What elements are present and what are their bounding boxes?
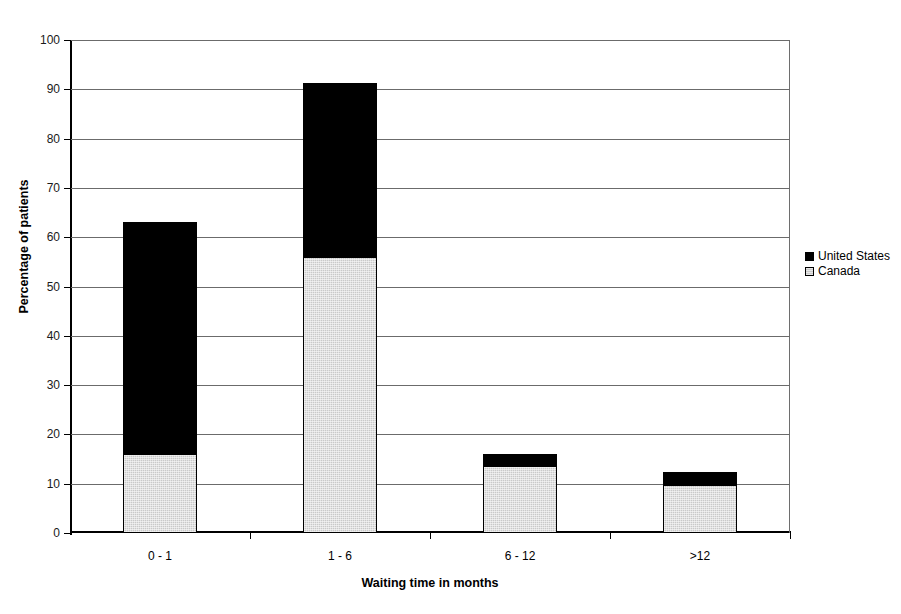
y-axis-tick-label: 70 <box>47 181 60 195</box>
y-axis-tick-label: 50 <box>47 280 60 294</box>
y-axis-tick-label: 100 <box>40 33 60 47</box>
x-axis-tick-label: 1 - 6 <box>328 549 352 563</box>
bar-segment-united-states[interactable] <box>663 472 737 485</box>
y-axis-tick <box>64 434 71 435</box>
y-axis-tick-label: 20 <box>47 427 60 441</box>
bar-segment-canada[interactable] <box>663 485 737 533</box>
legend-item-label: United States <box>818 249 890 264</box>
y-axis-title: Percentage of patients <box>14 0 34 493</box>
bar-stack[interactable] <box>483 454 557 533</box>
x-axis-tick-label: 6 - 12 <box>505 549 536 563</box>
y-axis-tick-label: 90 <box>47 82 60 96</box>
y-axis-tick <box>64 484 71 485</box>
gridline <box>70 139 790 140</box>
chart-legend: United StatesCanada <box>805 249 890 279</box>
x-axis-tick <box>430 532 431 539</box>
gridline <box>70 188 790 189</box>
gridline <box>70 89 790 90</box>
bar-stack[interactable] <box>123 222 197 533</box>
bar-segment-united-states[interactable] <box>303 83 377 257</box>
legend-item[interactable]: Canada <box>805 264 890 279</box>
legend-item-label: Canada <box>818 264 860 279</box>
x-axis-tick-label: >12 <box>690 549 710 563</box>
y-axis-tick-label: 10 <box>47 477 60 491</box>
y-axis-tick-label: 80 <box>47 132 60 146</box>
y-axis-tick <box>64 336 71 337</box>
y-axis-tick <box>64 237 71 238</box>
y-axis-tick-label: 30 <box>47 378 60 392</box>
y-axis-tick <box>64 287 71 288</box>
y-axis-tick <box>64 139 71 140</box>
bar-segment-canada[interactable] <box>123 454 197 533</box>
x-axis-title: Waiting time in months <box>70 576 790 590</box>
black-square-icon <box>805 252 814 261</box>
y-axis-tick <box>64 385 71 386</box>
x-axis-tick <box>250 532 251 539</box>
gray-square-icon <box>805 267 814 276</box>
legend-item[interactable]: United States <box>805 249 890 264</box>
y-axis-tick-label: 40 <box>47 329 60 343</box>
bar-segment-canada[interactable] <box>483 466 557 533</box>
y-axis-line <box>70 40 72 535</box>
y-axis-tick <box>64 89 71 90</box>
y-axis-tick <box>64 188 71 189</box>
bar-segment-united-states[interactable] <box>483 454 557 467</box>
x-axis-tick <box>610 532 611 539</box>
y-axis-tick <box>64 40 71 41</box>
y-axis-tick-label: 0 <box>53 526 60 540</box>
y-axis-tick <box>64 533 71 534</box>
bar-segment-canada[interactable] <box>303 257 377 533</box>
chart-title <box>0 0 901 3</box>
bar-stack[interactable] <box>303 83 377 533</box>
x-axis-tick <box>790 532 791 539</box>
y-axis-tick-label: 60 <box>47 230 60 244</box>
gridline <box>70 40 790 41</box>
plot-area: 0102030405060708090100 0 - 11 - 66 - 12>… <box>70 40 790 533</box>
bar-stack[interactable] <box>663 472 737 533</box>
bar-segment-united-states[interactable] <box>123 222 197 454</box>
x-axis-tick-label: 0 - 1 <box>148 549 172 563</box>
chart-figure: Percentage of patients 01020304050607080… <box>0 0 901 614</box>
